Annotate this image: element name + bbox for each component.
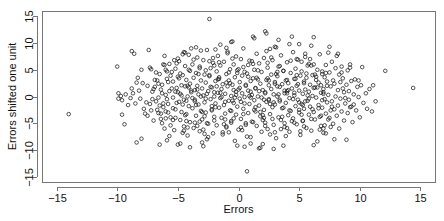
data-point bbox=[203, 101, 207, 105]
data-point bbox=[411, 86, 415, 90]
data-point bbox=[271, 117, 275, 121]
data-point bbox=[151, 97, 155, 101]
data-point bbox=[243, 95, 247, 99]
data-point bbox=[223, 100, 227, 104]
data-point bbox=[148, 102, 152, 106]
data-point bbox=[246, 63, 250, 67]
y-tick-label: 0 bbox=[23, 94, 35, 100]
data-point bbox=[356, 85, 360, 89]
data-point bbox=[135, 141, 139, 145]
data-point bbox=[202, 58, 206, 62]
data-point bbox=[284, 101, 288, 105]
data-point bbox=[286, 113, 290, 117]
data-point bbox=[193, 121, 197, 125]
data-point bbox=[340, 65, 344, 69]
data-point bbox=[325, 80, 329, 84]
data-point bbox=[215, 85, 219, 89]
data-point bbox=[336, 104, 340, 108]
data-point bbox=[288, 42, 292, 46]
y-tick-label: −10 bbox=[23, 141, 35, 160]
data-point bbox=[312, 35, 316, 39]
data-point bbox=[162, 102, 166, 106]
data-point bbox=[303, 100, 307, 104]
data-point bbox=[204, 111, 208, 115]
data-point bbox=[235, 71, 239, 75]
data-point bbox=[290, 35, 294, 39]
data-point bbox=[341, 77, 345, 81]
data-point bbox=[266, 127, 270, 131]
data-point bbox=[175, 62, 179, 66]
data-point bbox=[273, 131, 277, 135]
data-point bbox=[140, 137, 144, 141]
data-point bbox=[255, 124, 259, 128]
data-point bbox=[383, 69, 387, 73]
data-point bbox=[318, 128, 322, 132]
data-point bbox=[153, 78, 157, 82]
data-point bbox=[268, 133, 272, 137]
data-point bbox=[194, 46, 198, 50]
data-point bbox=[243, 102, 247, 106]
data-point bbox=[157, 82, 161, 86]
data-point bbox=[309, 44, 313, 48]
data-point bbox=[233, 139, 237, 143]
data-point bbox=[188, 145, 192, 149]
data-point bbox=[183, 64, 187, 68]
data-point bbox=[329, 109, 333, 113]
data-point bbox=[142, 107, 146, 111]
data-point bbox=[166, 102, 170, 106]
data-point bbox=[208, 17, 212, 21]
data-point bbox=[212, 119, 216, 123]
data-point bbox=[232, 117, 236, 121]
data-point bbox=[325, 84, 329, 88]
data-point bbox=[257, 104, 261, 108]
data-point bbox=[233, 75, 237, 79]
data-point bbox=[242, 112, 246, 116]
data-point bbox=[212, 95, 216, 99]
data-point bbox=[243, 145, 247, 149]
data-point bbox=[160, 91, 164, 95]
data-point bbox=[337, 127, 341, 131]
data-point bbox=[240, 91, 244, 95]
data-point bbox=[154, 100, 158, 104]
data-point bbox=[293, 91, 297, 95]
data-point bbox=[135, 81, 139, 85]
data-point bbox=[346, 111, 350, 115]
data-point bbox=[199, 49, 203, 53]
data-point bbox=[267, 83, 271, 87]
data-point bbox=[262, 108, 266, 112]
data-point bbox=[166, 80, 170, 84]
data-point bbox=[352, 93, 356, 97]
data-point bbox=[195, 56, 199, 60]
data-point bbox=[328, 45, 332, 49]
data-point bbox=[340, 71, 344, 75]
data-point bbox=[168, 62, 172, 66]
data-point bbox=[214, 48, 218, 52]
data-point bbox=[300, 70, 304, 74]
data-point bbox=[272, 147, 276, 151]
data-point bbox=[225, 81, 229, 85]
data-point bbox=[187, 53, 191, 57]
data-point bbox=[141, 81, 145, 85]
data-point bbox=[314, 96, 318, 100]
data-point bbox=[290, 87, 294, 91]
data-point bbox=[182, 125, 186, 129]
data-point bbox=[262, 98, 266, 102]
data-point bbox=[174, 67, 178, 71]
data-point bbox=[216, 54, 220, 58]
data-point bbox=[364, 91, 368, 95]
data-point bbox=[358, 116, 362, 120]
data-point bbox=[324, 112, 328, 116]
data-point bbox=[322, 127, 326, 131]
data-point bbox=[305, 76, 309, 80]
data-point bbox=[297, 89, 301, 93]
data-point bbox=[268, 112, 272, 116]
data-point bbox=[208, 59, 212, 63]
data-point bbox=[180, 83, 184, 87]
y-tick-label: −15 bbox=[23, 168, 35, 187]
data-point bbox=[245, 135, 249, 139]
x-axis: −15−10−5051015 bbox=[48, 187, 426, 204]
data-point bbox=[341, 87, 345, 91]
data-point bbox=[283, 121, 287, 125]
data-point bbox=[249, 142, 253, 146]
data-point bbox=[282, 144, 286, 148]
